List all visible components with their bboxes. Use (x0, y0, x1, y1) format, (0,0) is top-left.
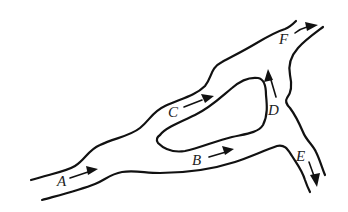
label-b: B (192, 152, 201, 168)
arrow-e (309, 162, 320, 187)
right-bank (286, 27, 325, 175)
label-c: C (168, 104, 179, 120)
label-e: E (295, 148, 305, 164)
arrow-f (295, 22, 318, 33)
river-diagram: A B C D E F (0, 0, 348, 212)
arrow-a (70, 166, 98, 178)
label-a: A (56, 173, 67, 189)
upper-bank (31, 21, 296, 180)
label-f: F (278, 31, 289, 47)
arrow-b (209, 146, 234, 157)
lower-bank (42, 146, 310, 200)
label-d: D (267, 102, 279, 118)
